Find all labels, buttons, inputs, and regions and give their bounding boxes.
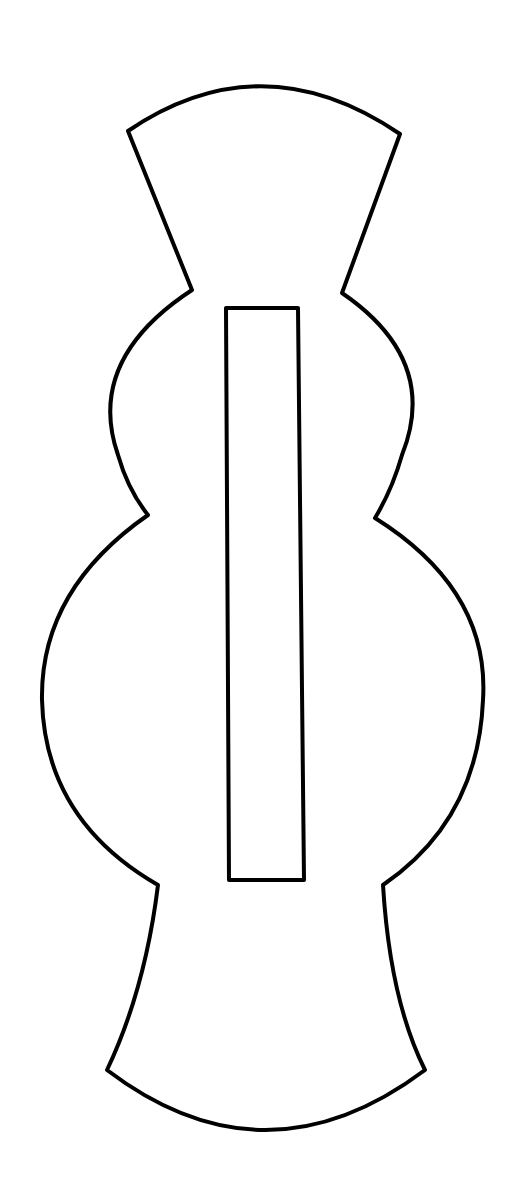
outline-drawing [0, 0, 519, 1201]
center-slot-shape [226, 308, 304, 880]
